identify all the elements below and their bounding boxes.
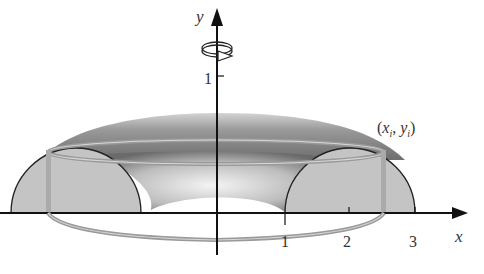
shell-right-side bbox=[381, 150, 386, 213]
y-tick-label-1: 1 bbox=[204, 70, 212, 87]
x-tick-label-2: 2 bbox=[343, 233, 351, 250]
x-axis-arrow-icon bbox=[452, 207, 468, 219]
y-axis-label: y bbox=[194, 7, 204, 26]
shell-left-side bbox=[46, 150, 51, 213]
torus-figure: y 1 1 2 3 x (xi, yi) bbox=[0, 0, 484, 274]
x-tick-label-1: 1 bbox=[281, 233, 289, 250]
x-tick-label-3: 3 bbox=[409, 233, 417, 250]
y-axis-arrow-icon bbox=[211, 8, 223, 26]
x-axis-label: x bbox=[454, 227, 463, 246]
point-label: (xi, yi) bbox=[377, 119, 415, 139]
